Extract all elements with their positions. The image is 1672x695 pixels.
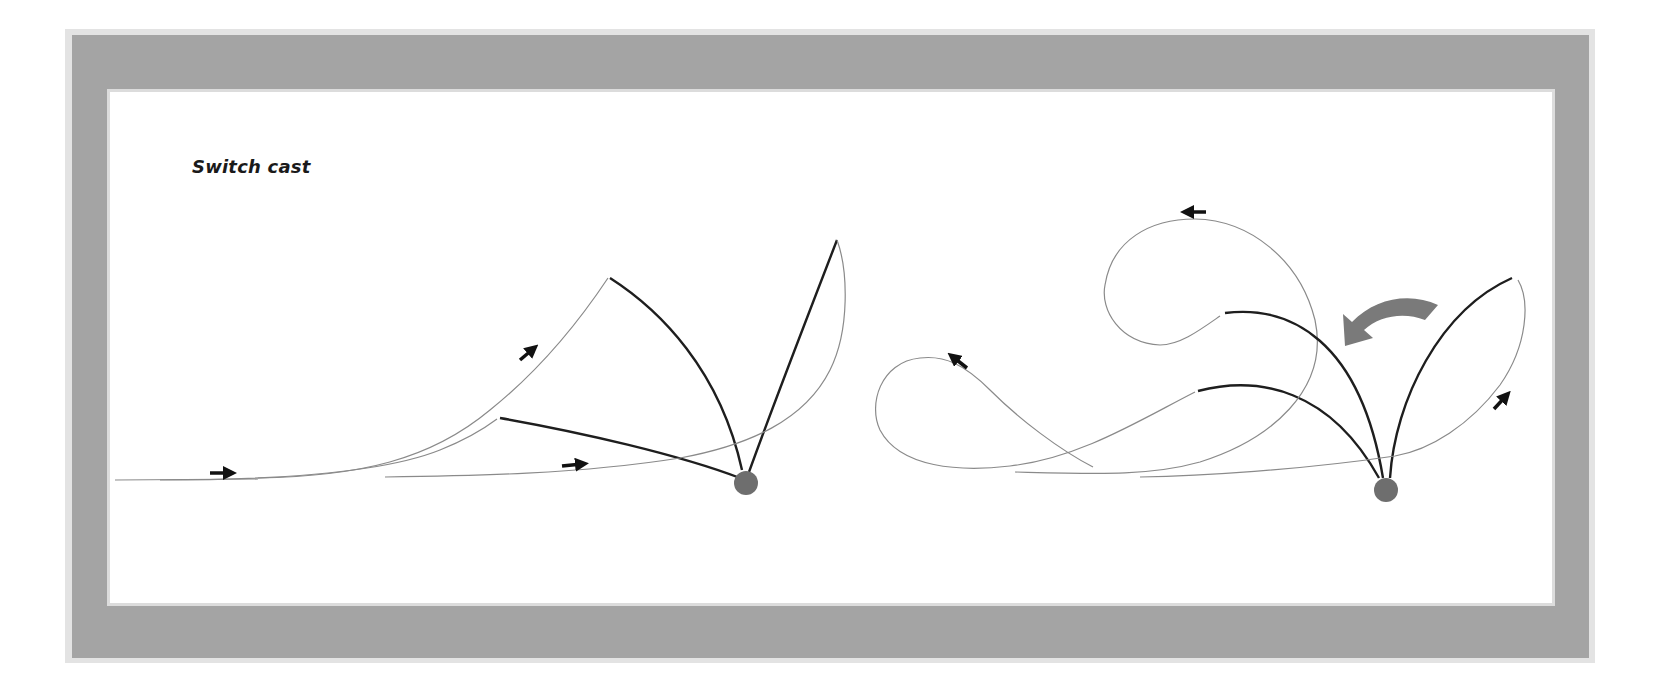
rod-low-position [1198,385,1379,478]
right-sequence [876,212,1525,502]
curved-direction-arrow-icon [1343,298,1438,346]
fly-line-small-loop [876,357,1195,468]
switch-cast-illustration [0,0,1672,695]
rod-back-position [610,278,742,470]
fly-line-big-loop [1015,219,1317,473]
arrow-right-icon [562,464,582,466]
rod-pivot-ball-right [1374,478,1398,502]
rod-low-position [500,418,740,478]
left-sequence [115,240,845,495]
fly-line-loop-outer [258,278,608,478]
fly-line-forward-loop [1140,280,1525,477]
arrow-up-right-icon [520,349,533,360]
arrow-up-right-icon [1494,396,1506,409]
rod-forward-position [749,240,837,472]
fly-line-loop-inner [160,419,497,480]
rod-pivot-ball-left [734,471,758,495]
